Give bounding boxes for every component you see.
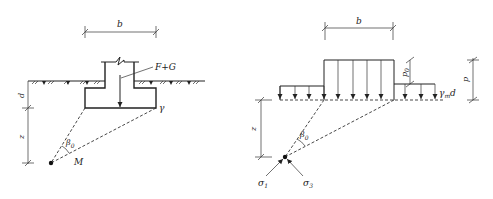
pressure-block xyxy=(280,60,445,100)
left-ground-surface xyxy=(28,81,205,85)
left-depth-dimension: d z xyxy=(17,81,34,166)
right-width-dimension: b xyxy=(322,16,396,40)
p-label: p xyxy=(461,77,470,82)
right-z-label: z xyxy=(249,126,258,132)
left-width-label: b xyxy=(117,19,123,29)
unit-weight-label: γ xyxy=(159,103,165,113)
p0-dimension: p0 xyxy=(400,57,414,87)
right-angle-label: β0 xyxy=(299,130,309,141)
left-z-label: z xyxy=(17,134,26,140)
diagram-canvas: b xyxy=(0,0,493,199)
p0-label: p0 xyxy=(400,68,410,77)
sigma1-label: σ1 xyxy=(258,178,268,189)
pressure-arrows xyxy=(280,60,435,99)
stress-point xyxy=(283,155,287,159)
load-label: F+G xyxy=(154,62,176,72)
right-z-dimension: z xyxy=(249,97,272,160)
overburden-label: γmd xyxy=(439,88,456,99)
principal-stresses: σ1 σ3 xyxy=(258,159,313,189)
left-foundation-diagram: b xyxy=(17,19,205,167)
point-m xyxy=(49,161,53,165)
sigma3-label: σ3 xyxy=(303,178,313,189)
left-load-arrow: F+G xyxy=(120,62,176,107)
p-dimension: p xyxy=(461,57,479,103)
right-pressure-diagram: b p0 xyxy=(249,16,479,189)
left-width-dimension: b xyxy=(82,19,159,38)
point-label: M xyxy=(73,157,84,167)
right-stress-lines: β0 xyxy=(283,100,394,159)
right-width-label: b xyxy=(356,16,362,26)
depth-label: d xyxy=(17,93,26,98)
left-stress-lines: β0 M xyxy=(49,108,156,167)
left-angle-label: β0 xyxy=(65,138,75,149)
